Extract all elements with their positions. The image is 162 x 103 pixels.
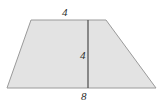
geometry-figure: 4 4 8 [0, 0, 162, 103]
bottom-base-label: 8 [81, 91, 87, 102]
height-label: 4 [80, 50, 86, 61]
top-base-label: 4 [62, 7, 68, 18]
